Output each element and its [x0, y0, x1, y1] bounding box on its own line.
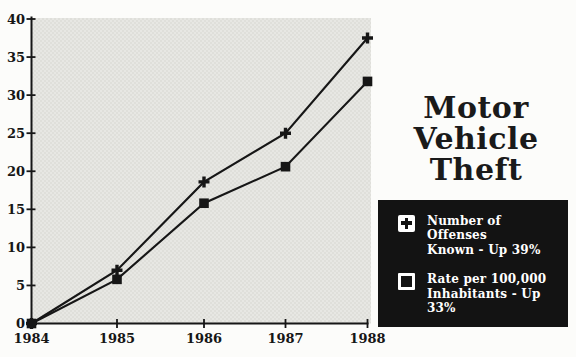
chart-panel: 051015202530354019841985198619871988 Mot… — [0, 0, 576, 357]
x-tick-label: 1988 — [349, 331, 385, 346]
legend-box: Number of Offenses Known - Up 39% Rate p… — [378, 200, 568, 327]
legend-rate-line-2: Inhabitants - Up 33% — [427, 287, 541, 316]
legend-offenses-line-1: Number of Offenses — [427, 214, 501, 243]
legend-label-offenses: Number of Offenses Known - Up 39% — [427, 214, 560, 258]
legend-offenses-line-2: Known - Up 39% — [427, 243, 540, 257]
x-tick-label: 1986 — [186, 331, 222, 346]
square-data-marker — [363, 77, 373, 87]
square-data-marker — [112, 275, 122, 285]
square-data-marker — [199, 198, 209, 208]
y-tick-label: 25 — [7, 126, 25, 141]
y-tick-label: 5 — [16, 278, 25, 293]
x-tick-label: 1985 — [99, 331, 135, 346]
chart-title-line-2: Vehicle — [380, 123, 572, 154]
y-tick-label: 0 — [16, 316, 25, 331]
y-tick-label: 30 — [7, 88, 25, 103]
y-tick-label: 20 — [7, 164, 25, 179]
legend-rate-line-1: Rate per 100,000 — [427, 272, 546, 286]
legend-item-offenses: Number of Offenses Known - Up 39% — [398, 214, 560, 258]
chart-title: Motor Vehicle Theft — [380, 92, 572, 185]
open-square-marker-icon — [398, 273, 415, 290]
chart-title-line-1: Motor — [380, 92, 572, 123]
plus-marker-icon — [398, 215, 415, 232]
x-tick-label: 1984 — [13, 331, 49, 346]
y-tick-label: 15 — [7, 202, 25, 217]
legend-label-rate: Rate per 100,000 Inhabitants - Up 33% — [427, 272, 560, 316]
y-tick-label: 35 — [7, 50, 25, 65]
square-data-marker — [27, 319, 37, 329]
y-tick-label: 40 — [7, 12, 25, 27]
y-tick-label: 10 — [7, 240, 25, 255]
legend-item-rate: Rate per 100,000 Inhabitants - Up 33% — [398, 272, 560, 316]
square-data-marker — [281, 162, 291, 172]
plot-area — [32, 18, 371, 324]
chart-title-line-3: Theft — [380, 154, 572, 185]
x-tick-label: 1987 — [267, 331, 303, 346]
